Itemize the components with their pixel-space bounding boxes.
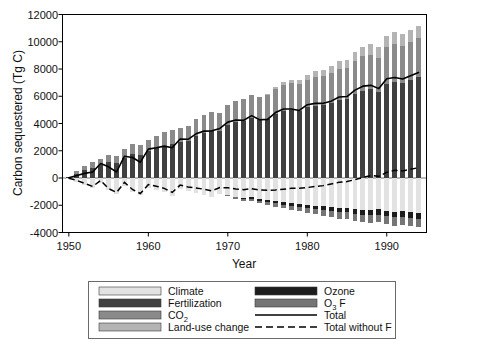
- bar-segment: [257, 199, 262, 201]
- bar-segment: [146, 151, 151, 178]
- bar-segment: [313, 77, 318, 106]
- bar-segment: [297, 204, 302, 207]
- bar-segment: [225, 178, 230, 195]
- bar-segment: [106, 178, 111, 190]
- bar-segment: [313, 178, 318, 206]
- bar-segment: [384, 36, 389, 47]
- legend-swatch: [99, 299, 161, 307]
- bar-segment: [392, 217, 397, 225]
- bar-segment: [329, 66, 334, 73]
- bar-segment: [202, 178, 207, 195]
- bar-segment: [376, 92, 381, 178]
- bar-segment: [98, 165, 103, 178]
- bar-segment: [345, 178, 350, 208]
- bar-segment: [353, 52, 358, 61]
- legend-label: Total: [324, 309, 346, 321]
- bar-segment: [321, 105, 326, 178]
- bar-segment: [265, 95, 270, 118]
- bar-segment: [249, 178, 254, 197]
- x-tick-label: 1970: [216, 240, 240, 252]
- bar-segment: [186, 141, 191, 178]
- x-tick-labels: 19501960197019801990: [57, 233, 399, 252]
- bar-segment: [408, 80, 413, 178]
- bar-segment: [241, 199, 246, 201]
- bar-segment: [337, 61, 342, 69]
- bar-segment: [170, 130, 175, 144]
- bar-segment: [353, 214, 358, 221]
- bar-segment: [186, 178, 191, 191]
- bar-segment: [384, 211, 389, 216]
- bar-segment: [297, 178, 302, 204]
- bar-segment: [249, 118, 254, 178]
- bar-segment: [305, 75, 310, 80]
- bar-segment: [376, 215, 381, 223]
- y-tick-label: 10000: [27, 36, 58, 48]
- legend-label: Total without F: [324, 321, 392, 333]
- y-axis-title-text: Carbon sequestered (Tg C): [11, 50, 25, 196]
- bar-segment: [392, 32, 397, 43]
- figure-container: Carbon sequestered (Tg C) 12000 10000 80…: [0, 0, 484, 346]
- bar-segment: [329, 211, 334, 217]
- x-tick-label: 1980: [295, 240, 319, 252]
- bar-segment: [289, 203, 294, 206]
- bar-segment: [392, 82, 397, 178]
- bar-segment: [114, 178, 119, 194]
- bar-segment: [353, 209, 358, 214]
- bar-segment: [313, 206, 318, 210]
- bar-segment: [416, 213, 421, 219]
- bar-segment: [297, 80, 302, 84]
- bar-segment: [178, 142, 183, 178]
- bar-segment: [194, 136, 199, 178]
- bar-segment: [162, 132, 167, 145]
- bar-segment: [400, 83, 405, 178]
- legend-swatch: [99, 311, 161, 319]
- bar-segment: [225, 195, 230, 196]
- bar-segment: [368, 89, 373, 178]
- plot-area: [59, 15, 427, 233]
- bar-segment: [265, 178, 270, 200]
- bar-segment: [217, 131, 222, 178]
- bar-segment: [368, 178, 373, 210]
- bar-segment: [400, 178, 405, 211]
- bar-segment: [392, 178, 397, 212]
- bar-segment: [416, 38, 421, 78]
- y-tick-label: 4000: [34, 118, 58, 130]
- bar-segment: [130, 144, 135, 154]
- bar-segment: [202, 115, 207, 133]
- bar-segment: [392, 212, 397, 218]
- bar-segment: [400, 34, 405, 45]
- bar-segment: [257, 201, 262, 203]
- bar-segment: [249, 197, 254, 198]
- y-tick-label: -4000: [30, 227, 58, 239]
- bar-segment: [313, 71, 318, 77]
- bar-segment: [353, 94, 358, 178]
- bar-segment: [416, 219, 421, 228]
- bar-segment: [289, 80, 294, 84]
- bar-segment: [337, 212, 342, 219]
- bar-segment: [281, 202, 286, 204]
- bar-segment: [209, 178, 214, 197]
- bar-segment: [170, 144, 175, 178]
- bar-segment: [321, 210, 326, 216]
- bar-segment: [392, 44, 397, 82]
- bar-segment: [345, 60, 350, 68]
- bar-segment: [273, 89, 278, 114]
- bar-segment: [233, 178, 238, 197]
- bar-segment: [74, 171, 79, 173]
- legend-label: Land-use change: [168, 321, 249, 333]
- bar-segment: [249, 199, 254, 201]
- bar-segment: [408, 30, 413, 42]
- bar-segment: [360, 210, 365, 215]
- bar-segment: [329, 73, 334, 103]
- bar-segment: [305, 178, 310, 205]
- bar-segment: [273, 201, 278, 203]
- bar-segment: [360, 91, 365, 178]
- x-axis-title: Year: [232, 257, 256, 271]
- bar-segment: [408, 178, 413, 212]
- bar-segment: [209, 112, 214, 131]
- x-tick-label: 1990: [375, 240, 399, 252]
- bar-segment: [345, 99, 350, 178]
- y-tick-label: 6000: [34, 90, 58, 102]
- y-tick-label: 0: [52, 172, 58, 184]
- y-tick-label: 12000: [27, 9, 58, 21]
